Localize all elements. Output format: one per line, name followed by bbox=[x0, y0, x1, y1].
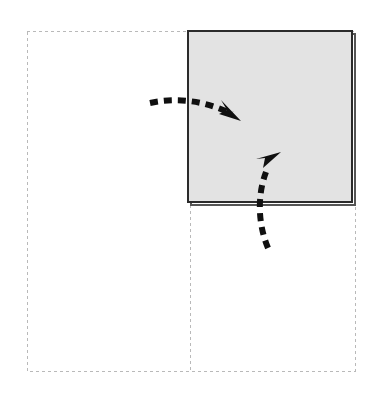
diagram-canvas bbox=[0, 0, 368, 399]
gray-panel[interactable] bbox=[188, 31, 352, 202]
diagram-svg bbox=[0, 0, 368, 399]
